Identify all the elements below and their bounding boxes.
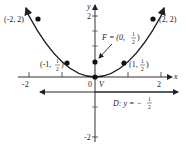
vertex-label: V	[99, 80, 105, 89]
origin-label: 0	[88, 80, 92, 89]
directrix-frac-den: 2	[148, 104, 151, 110]
label-neg2-2: (-2, 2)	[4, 15, 24, 24]
label-neg1-frac-num: 1	[56, 58, 59, 64]
label-1-half: (1,	[129, 60, 138, 69]
vertex-point	[92, 74, 97, 79]
focus-frac-num: 1	[132, 31, 135, 37]
label-2-2: (2, 2)	[159, 15, 177, 24]
focus-frac-den: 2	[132, 39, 135, 45]
point-neg2-2	[35, 16, 40, 21]
y-axis-label: y	[86, 2, 91, 11]
point-neg1-half	[64, 60, 69, 65]
parabola-figure: y 2 -2 x -2 2 0 V D: y = − 1 2 (-2, 2) (…	[0, 0, 186, 146]
x-tick-label-neg2: -2	[22, 80, 29, 89]
label-neg1-half: (-1,	[40, 60, 51, 69]
focus-point	[92, 59, 97, 64]
directrix-frac-num: 1	[148, 96, 151, 102]
point-2-2	[150, 16, 155, 21]
x-axis-label: x	[173, 72, 178, 81]
label-1-suffix: )	[146, 60, 149, 69]
label-1-frac-den: 2	[141, 66, 144, 72]
focus-suffix: )	[137, 33, 140, 42]
point-1-half	[121, 60, 126, 65]
x-tick-label-2: 2	[157, 80, 161, 89]
directrix-label: D: y = −	[112, 99, 142, 108]
y-tick-label-neg2: -2	[84, 133, 91, 142]
label-1-frac-num: 1	[141, 58, 144, 64]
y-tick-label-2: 2	[87, 12, 91, 21]
focus-label: F = (0,	[101, 33, 125, 42]
focus-pointer-arrow	[99, 44, 112, 58]
label-neg1-suffix: )	[61, 60, 64, 69]
label-neg1-frac-den: 2	[56, 66, 59, 72]
curve-arrow-left	[26, 8, 29, 16]
